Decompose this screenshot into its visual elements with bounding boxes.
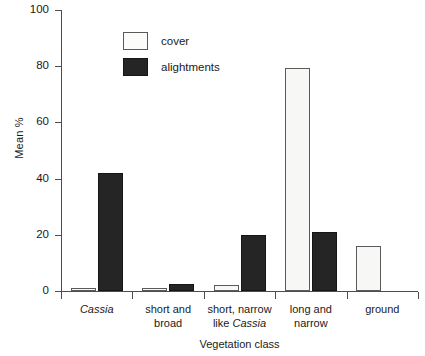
legend-swatch-cover (123, 32, 148, 50)
y-axis-tick-label: 20 (5, 229, 49, 241)
bar-alightments-4 (312, 232, 337, 291)
y-axis-tick-label: 0 (5, 285, 49, 297)
x-axis-tick (347, 292, 348, 299)
y-axis-tick-label: 40 (5, 173, 49, 185)
legend-item-alightments: alightments (123, 56, 273, 82)
y-axis-tick-label: 80 (5, 60, 49, 72)
x-axis-tick (418, 292, 419, 299)
y-axis-tick-label: 60 (5, 116, 49, 128)
legend-label-alightments: alightments (161, 58, 220, 76)
x-axis-title: Vegetation class (61, 338, 418, 350)
x-axis-tick (275, 292, 276, 299)
bar-cover-5 (356, 246, 381, 291)
bar-alightments-1 (98, 173, 123, 291)
legend-swatch-alightments (123, 58, 148, 76)
legend-label-cover: cover (161, 32, 189, 50)
bar-alightments-2 (169, 284, 194, 291)
bar-chart-figure: Mean % 020406080100 Cassiashort andbroad… (0, 0, 425, 356)
y-axis-title: Mean % (13, 93, 25, 183)
y-axis-tick-label: 100 (5, 4, 49, 16)
x-axis-label-5: ground (341, 303, 424, 317)
chart-legend: coveralightments (123, 30, 273, 82)
x-axis-line (61, 291, 418, 292)
legend-item-cover: cover (123, 30, 273, 56)
x-axis-tick (61, 292, 62, 299)
bar-cover-4 (285, 68, 310, 291)
bar-alightments-3 (241, 235, 266, 291)
x-axis-tick (204, 292, 205, 299)
x-axis-tick (132, 292, 133, 299)
